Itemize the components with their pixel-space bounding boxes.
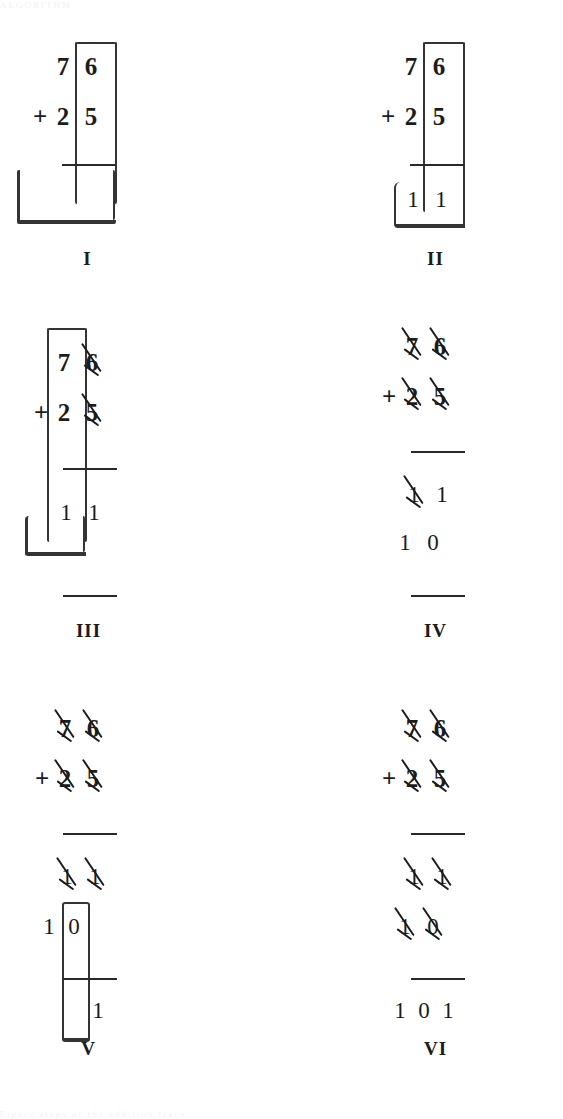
panel-label-I: I	[0, 248, 228, 270]
panel-label-V: V	[0, 1038, 229, 1060]
digit-ones-partial2-IV: 0	[424, 528, 442, 558]
digit-ones-top-VI: 6	[431, 714, 449, 744]
digit-ones-top-V: 6	[84, 714, 102, 744]
digit-ones-top-I: 6	[82, 52, 100, 82]
digit-tens-top-V: 7	[56, 714, 74, 744]
operator-plus-V: +	[35, 764, 49, 794]
digit-ones-top-IV: 6	[431, 332, 449, 362]
digit-tens-top-IV: 7	[403, 332, 421, 362]
digit-tens-top-II: 7	[402, 52, 420, 82]
sum-rule-III	[63, 468, 117, 470]
digit-tens-bottom-II: 2	[402, 102, 420, 132]
digit-tens-partial2-V: 1	[40, 912, 58, 942]
panel-label-IV: IV	[295, 620, 563, 642]
digit-ones-partial1-V: 1	[86, 862, 104, 892]
panel-II: 7 6 + 2 5 1 1 II	[281, 30, 562, 290]
digit-final-0-VI: 1	[391, 996, 409, 1026]
digit-ones-bottom-III: 5	[83, 398, 101, 428]
digit-ones-partial1-VI: 1	[433, 862, 451, 892]
hand-region-foot-right-I	[109, 170, 115, 220]
digit-ones-bottom-I: 5	[82, 102, 100, 132]
digit-ones-partial1-IV: 1	[433, 480, 451, 510]
cropped-header-text: ALGORITHM	[0, 0, 563, 10]
digit-ones-bottom-V: 5	[84, 764, 102, 794]
digit-ones-bottom-VI: 5	[431, 764, 449, 794]
operator-plus-I: +	[33, 102, 47, 132]
sum-rule-V	[63, 833, 117, 835]
sum-rule-IV	[411, 451, 465, 453]
digit-tens-bottom-I: 2	[54, 102, 72, 132]
digit-tens-bottom-V: 2	[56, 764, 74, 794]
final-rule-III	[63, 595, 117, 597]
addition-trace-figure: ALGORITHM 7 6 + 2 5 I 7	[0, 0, 563, 1119]
digit-ones-bottom-II: 5	[430, 102, 448, 132]
panel-I: 7 6 + 2 5 I	[0, 30, 281, 290]
digit-final-2-VI: 1	[439, 996, 457, 1026]
operator-plus-IV: +	[382, 382, 396, 412]
digit-tens-partial1-IV: 1	[405, 480, 423, 510]
digit-ones-top-II: 6	[430, 52, 448, 82]
digit-tens-bottom-IV: 2	[403, 382, 421, 412]
digit-ones-partial2-VI: 0	[424, 912, 442, 942]
digit-ones-partial2-V: 0	[65, 912, 83, 942]
sum-rule-VI	[411, 833, 465, 835]
cropped-caption-text: Figure steps of the addition trace	[0, 1109, 563, 1119]
final-rule-V	[63, 978, 117, 980]
digit-tens-partial1-VI: 1	[405, 862, 423, 892]
digit-final-0-V: 1	[89, 996, 107, 1026]
panel-V: 7 6 + 2 5 1 1 1 0 1 V	[0, 700, 281, 1040]
operator-plus-II: +	[381, 102, 395, 132]
digit-tens-top-I: 7	[54, 52, 72, 82]
digit-tens-partial2-IV: 1	[396, 528, 414, 558]
sum-rule-II	[410, 164, 464, 166]
digit-tens-partial2-VI: 1	[396, 912, 414, 942]
final-rule-VI	[411, 978, 465, 980]
digit-final-1-VI: 0	[415, 996, 433, 1026]
hand-region-foot-III	[25, 516, 86, 556]
panel-VI: 7 6 + 2 5 1 1 1 0 1 0 1	[281, 700, 562, 1040]
digit-tens-partial1-V: 1	[58, 862, 76, 892]
panel-IV: 7 6 + 2 5 1 1 1 0 IV	[281, 320, 562, 620]
digit-tens-top-III: 7	[55, 348, 73, 378]
hand-region-foot-I	[17, 170, 116, 224]
panel-label-VI: VI	[295, 1038, 563, 1060]
digit-ones-top-III: 6	[83, 348, 101, 378]
sum-rule-I	[62, 164, 116, 166]
digit-ones-partial1-III: 1	[85, 498, 103, 528]
operator-plus-VI: +	[382, 764, 396, 794]
digit-tens-bottom-III: 2	[55, 398, 73, 428]
digit-tens-partial1-II: 1	[404, 185, 422, 215]
digit-ones-bottom-IV: 5	[431, 382, 449, 412]
operator-plus-III: +	[34, 398, 48, 428]
panel-label-III: III	[0, 620, 229, 642]
digit-tens-bottom-VI: 2	[403, 764, 421, 794]
digit-tens-top-VI: 7	[403, 714, 421, 744]
digit-ones-partial1-II: 1	[432, 185, 450, 215]
final-rule-IV	[411, 595, 465, 597]
panel-III: 7 6 + 2 5 1 1 III	[0, 320, 281, 620]
panel-label-II: II	[295, 248, 563, 270]
digit-tens-partial1-III: 1	[57, 498, 75, 528]
